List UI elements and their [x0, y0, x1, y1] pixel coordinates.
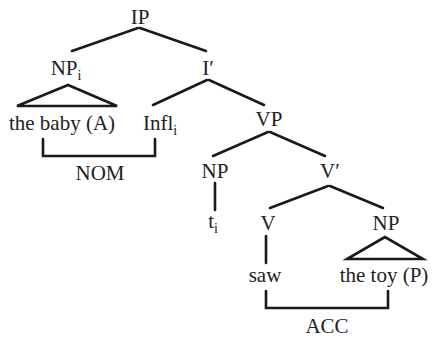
- node-subject-np: NPi: [51, 56, 82, 83]
- node-v: V: [260, 211, 275, 235]
- node-ibar: I′: [202, 56, 214, 80]
- node-ip: IP: [131, 5, 150, 29]
- edge-ip-np: [72, 28, 138, 51]
- label-acc: ACC: [305, 314, 348, 338]
- trace: ti: [208, 209, 218, 236]
- triangle-subject-np: [17, 85, 117, 106]
- triangle-object-np: [347, 237, 423, 259]
- bracket-acc: [266, 291, 388, 308]
- node-vp: VP: [256, 107, 283, 131]
- yield-object: the toy (P): [340, 263, 429, 287]
- edge-vbar-np: [330, 186, 383, 208]
- edge-ibar-vp: [209, 80, 264, 105]
- syntax-tree-diagram: IP NPi the baby (A) I′ Infli NOM VP NP t…: [0, 0, 443, 345]
- bracket-nom: [43, 139, 155, 156]
- node-infl: Infli: [143, 111, 177, 138]
- edge-ip-ibar: [140, 28, 206, 51]
- yield-subject: the baby (A): [9, 111, 115, 135]
- yield-verb: saw: [249, 263, 282, 287]
- edge-vp-vbar: [270, 132, 325, 156]
- node-object-np: NP: [373, 211, 400, 235]
- edge-vp-np: [213, 132, 268, 156]
- label-nom: NOM: [75, 161, 124, 185]
- edge-ibar-infl: [153, 80, 207, 105]
- node-spec-np: NP: [202, 159, 229, 183]
- node-vbar: V′: [320, 159, 340, 183]
- edge-vbar-v: [270, 186, 328, 208]
